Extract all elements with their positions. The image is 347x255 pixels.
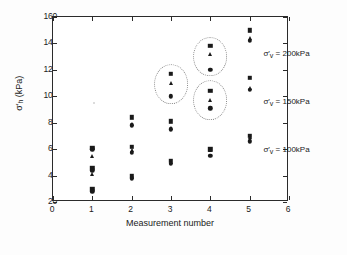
highlight-circle bbox=[154, 65, 188, 105]
x-tick-mark-top bbox=[171, 17, 172, 21]
data-point-circle bbox=[129, 176, 133, 180]
plot-area: σ′v = 200kPaσ′v = 150kPaσ′v = 100kPa bbox=[52, 16, 288, 201]
x-tick-label: 4 bbox=[201, 204, 217, 214]
x-tick-mark-top bbox=[92, 17, 93, 21]
data-point-triangle bbox=[90, 172, 94, 176]
y-tick-mark-right bbox=[283, 123, 287, 124]
annotation-value: = 150kPa bbox=[273, 97, 309, 106]
x-tick-mark bbox=[250, 196, 251, 200]
x-tick-mark-top bbox=[289, 17, 290, 21]
data-point-circle bbox=[247, 39, 251, 43]
y-axis-prime: ′ bbox=[14, 104, 24, 106]
pressure-annotation-label: σ′v = 150kPa bbox=[263, 97, 309, 107]
annotation-value: = 200kPa bbox=[273, 49, 309, 58]
x-tick-mark-top bbox=[250, 17, 251, 21]
annotation-value: = 100kPa bbox=[273, 146, 309, 155]
y-tick-mark-right bbox=[283, 202, 287, 203]
data-point-triangle bbox=[90, 154, 94, 158]
y-axis-title: σ′h (kPa) bbox=[14, 38, 25, 148]
y-axis-symbol: σ bbox=[14, 105, 24, 111]
x-tick-label: 2 bbox=[123, 204, 139, 214]
x-tick-mark bbox=[53, 196, 54, 200]
x-tick-mark-top bbox=[132, 17, 133, 21]
y-tick-mark-right bbox=[283, 17, 287, 18]
image-speck bbox=[93, 102, 95, 104]
data-point-circle bbox=[90, 189, 94, 193]
x-tick-mark-top bbox=[53, 17, 54, 21]
y-tick-mark-right bbox=[283, 70, 287, 71]
data-point-circle bbox=[169, 161, 173, 165]
data-point-circle bbox=[208, 154, 212, 158]
y-tick-mark bbox=[53, 202, 57, 203]
data-point-square bbox=[169, 119, 173, 123]
data-point-triangle bbox=[208, 148, 212, 152]
x-tick-label: 0 bbox=[44, 204, 60, 214]
data-point-circle bbox=[247, 139, 251, 143]
data-point-circle bbox=[169, 127, 173, 131]
x-tick-label: 3 bbox=[162, 204, 178, 214]
y-axis-units: (kPa) bbox=[14, 76, 24, 98]
y-tick-mark bbox=[53, 43, 57, 44]
data-point-circle bbox=[247, 87, 251, 91]
data-point-circle bbox=[129, 123, 133, 127]
y-tick-mark bbox=[53, 123, 57, 124]
x-tick-mark-top bbox=[210, 17, 211, 21]
highlight-circle bbox=[193, 37, 227, 77]
data-point-square bbox=[129, 115, 133, 119]
data-point-circle bbox=[90, 147, 94, 151]
x-tick-label: 5 bbox=[241, 204, 257, 214]
y-axis-subscript: h bbox=[17, 100, 24, 104]
pressure-annotation-label: σ′v = 200kPa bbox=[263, 49, 309, 59]
x-tick-mark bbox=[132, 196, 133, 200]
y-tick-mark bbox=[53, 176, 57, 177]
x-tick-mark bbox=[289, 196, 290, 200]
x-tick-label: 1 bbox=[83, 204, 99, 214]
y-tick-mark-right bbox=[283, 176, 287, 177]
y-tick-mark bbox=[53, 96, 57, 97]
x-tick-mark bbox=[171, 196, 172, 200]
y-tick-mark bbox=[53, 149, 57, 150]
y-tick-mark-right bbox=[283, 43, 287, 44]
data-point-square bbox=[247, 76, 251, 80]
x-axis-title: Measurement number bbox=[52, 218, 288, 228]
x-tick-mark bbox=[210, 196, 211, 200]
pressure-annotation-label: σ′v = 100kPa bbox=[263, 146, 309, 156]
data-point-square bbox=[247, 28, 251, 32]
y-tick-mark bbox=[53, 70, 57, 71]
chart-figure: 20406080100120140160 σ′h (kPa) σ′v = 200… bbox=[0, 0, 347, 255]
x-tick-label: 6 bbox=[280, 204, 296, 214]
highlight-circle bbox=[193, 80, 227, 120]
x-tick-mark bbox=[92, 196, 93, 200]
data-point-circle bbox=[129, 151, 133, 155]
